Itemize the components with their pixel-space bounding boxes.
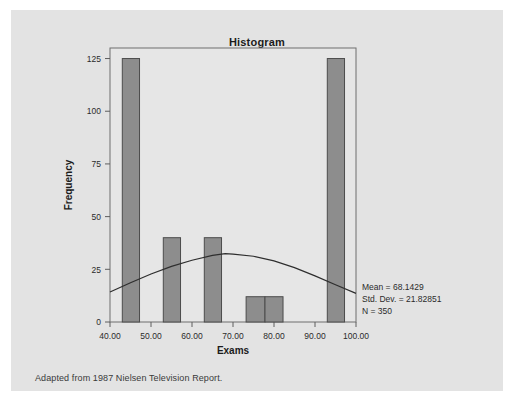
y-tick-label: 75 — [92, 159, 102, 169]
plot-area-background — [110, 48, 356, 322]
figure-caption: Adapted from 1987 Nielsen Television Rep… — [35, 373, 222, 383]
x-tick-label: 90.00 — [304, 331, 326, 341]
histogram-bar — [265, 297, 283, 322]
stat-n: N = 350 — [362, 306, 392, 316]
y-tick-label: 25 — [92, 265, 102, 275]
x-tick-label: 100.00 — [343, 331, 369, 341]
x-axis-title: Exams — [217, 345, 250, 356]
stat-std-dev: Std. Dev. = 21.82851 — [362, 294, 442, 304]
x-tick-label: 60.00 — [181, 331, 203, 341]
x-tick-label: 50.00 — [140, 331, 162, 341]
figure-panel: Histogram 0255075100125 40.0050.0060.007… — [11, 10, 503, 391]
y-tick-label: 50 — [92, 212, 102, 222]
histogram-bar — [246, 297, 265, 322]
x-tick-label: 80.00 — [263, 331, 285, 341]
x-tick-label: 70.00 — [222, 331, 244, 341]
y-tick-label: 125 — [87, 54, 101, 64]
histogram-plot: 0255075100125 40.0050.0060.0070.0080.009… — [11, 10, 503, 391]
y-axis-ticks: 0255075100125 — [87, 54, 110, 327]
x-axis-ticks: 40.0050.0060.0070.0080.0090.00100.00 — [99, 322, 369, 341]
y-tick-label: 0 — [96, 317, 101, 327]
histogram-bar — [163, 238, 180, 322]
x-tick-label: 40.00 — [99, 331, 121, 341]
histogram-bar — [204, 238, 221, 322]
y-tick-label: 100 — [87, 106, 101, 116]
y-axis-title: Frequency — [63, 159, 74, 210]
stat-mean: Mean = 68.1429 — [362, 282, 424, 292]
